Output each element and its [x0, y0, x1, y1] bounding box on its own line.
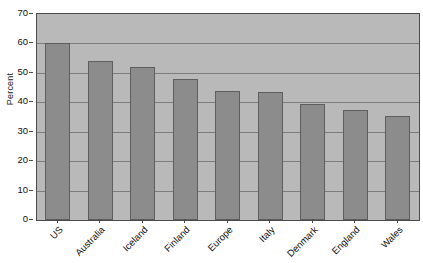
- x-category-group: Denmark: [291, 220, 333, 263]
- y-tick-mark: [29, 42, 33, 43]
- x-category-group: England: [333, 220, 375, 263]
- x-tick-mark: [397, 219, 398, 223]
- y-tick-mark: [29, 160, 33, 161]
- bar: [173, 79, 198, 220]
- x-category-group: Australia: [78, 220, 120, 263]
- bar: [343, 110, 368, 220]
- y-tick-label: 20: [17, 154, 28, 165]
- plot-area: [36, 13, 420, 221]
- x-tick-label: Italy: [257, 224, 277, 244]
- y-tick-label: 60: [17, 36, 28, 47]
- bar: [45, 43, 70, 220]
- bar: [215, 91, 240, 220]
- x-tick-mark: [57, 219, 58, 223]
- y-tick-mark: [29, 101, 33, 102]
- bar-series: [37, 14, 419, 220]
- x-tick-mark: [354, 219, 355, 223]
- bar: [385, 116, 410, 220]
- x-category-group: Italy: [248, 220, 290, 263]
- x-tick-mark: [227, 219, 228, 223]
- x-category-group: Europe: [206, 220, 248, 263]
- x-category-group: Wales: [376, 220, 418, 263]
- x-tick-label: Europe: [205, 224, 234, 253]
- x-tick-label: Australia: [73, 224, 107, 258]
- x-tick-label: Iceland: [120, 224, 149, 253]
- x-tick-label: US: [48, 224, 65, 241]
- bar: [130, 67, 155, 220]
- y-tick-label: 50: [17, 66, 28, 77]
- bar: [258, 92, 283, 220]
- bar-chart: Percent 010203040506070 USAustraliaIcela…: [0, 0, 423, 263]
- y-tick-mark: [29, 13, 33, 14]
- x-tick-label: England: [329, 224, 361, 256]
- x-tick-mark: [99, 219, 100, 223]
- x-category-group: Finland: [163, 220, 205, 263]
- y-tick-mark: [29, 219, 33, 220]
- bar: [300, 104, 325, 220]
- y-tick-mark: [29, 190, 33, 191]
- y-tick-label: 30: [17, 125, 28, 136]
- x-tick-mark: [312, 219, 313, 223]
- x-tick-mark: [269, 219, 270, 223]
- y-tick-mark: [29, 131, 33, 132]
- y-tick-label: 70: [17, 7, 28, 18]
- y-tick-label: 0: [23, 213, 28, 224]
- bar: [88, 61, 113, 220]
- x-tick-mark: [184, 219, 185, 223]
- x-category-group: US: [36, 220, 78, 263]
- y-tick-mark: [29, 72, 33, 73]
- y-tick-label: 40: [17, 95, 28, 106]
- x-tick-label: Wales: [379, 224, 405, 250]
- x-tick-mark: [142, 219, 143, 223]
- x-axis-category-labels: USAustraliaIcelandFinlandEuropeItalyDenm…: [36, 220, 418, 263]
- y-tick-label: 10: [17, 184, 28, 195]
- y-axis-tick-labels: 010203040506070: [0, 13, 33, 219]
- x-category-group: Iceland: [121, 220, 163, 263]
- x-tick-label: Finland: [162, 224, 192, 254]
